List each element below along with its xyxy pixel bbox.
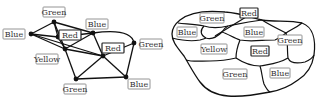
- svg-text:Red: Red: [62, 31, 78, 40]
- graph-node-label: Red: [59, 30, 81, 40]
- svg-text:Green: Green: [42, 8, 67, 17]
- svg-text:Red: Red: [241, 9, 257, 18]
- graph-node-label: Red: [102, 43, 124, 53]
- svg-text:Blue: Blue: [245, 28, 264, 37]
- graph-node-label: Blue: [86, 19, 108, 29]
- svg-text:Green: Green: [63, 85, 88, 94]
- map-region-label: Red: [251, 46, 269, 56]
- svg-text:Red: Red: [252, 47, 268, 56]
- svg-text:Yellow: Yellow: [200, 45, 227, 54]
- map-region-label: Blue: [177, 27, 197, 37]
- graph-node: [63, 47, 68, 52]
- svg-text:Green: Green: [200, 14, 225, 23]
- map-region-label: Green: [200, 13, 225, 23]
- map-region-label: Green: [278, 35, 303, 45]
- map-region-label: Blue: [270, 68, 290, 78]
- graph-node-label: Green: [63, 84, 88, 94]
- graph-node-label: Blue: [128, 79, 150, 89]
- svg-text:Blue: Blue: [88, 20, 107, 29]
- graph-node: [52, 20, 57, 25]
- graph-node-label: Blue: [3, 29, 25, 39]
- svg-text:Blue: Blue: [178, 28, 197, 37]
- svg-text:Yellow: Yellow: [33, 55, 60, 64]
- graph-node-label: Green: [139, 39, 164, 49]
- graph-edge: [126, 43, 134, 77]
- graph-edge: [65, 49, 76, 79]
- map-region-label: Red: [240, 8, 258, 18]
- svg-text:Red: Red: [105, 44, 121, 53]
- diagram-svg: GreenBlueRedBlueYellowRedGreenGreenBlue …: [0, 0, 318, 102]
- svg-text:Green: Green: [139, 40, 164, 49]
- graph-node-label: Yellow: [33, 54, 60, 64]
- svg-text:Green: Green: [278, 36, 303, 45]
- svg-text:Blue: Blue: [271, 69, 290, 78]
- map-region-label: Yellow: [200, 44, 227, 54]
- svg-text:Green: Green: [223, 70, 248, 79]
- graph-edge: [76, 77, 126, 79]
- map-regions: [172, 11, 315, 96]
- graph-edge-curved: [93, 32, 134, 43]
- graph-edge: [76, 56, 103, 79]
- graph-node: [132, 41, 137, 46]
- svg-text:Blue: Blue: [5, 30, 24, 39]
- diagram-stage: GreenBlueRedBlueYellowRedGreenGreenBlue …: [0, 0, 318, 102]
- map-region-label: Green: [223, 69, 248, 79]
- graph-node: [91, 31, 96, 36]
- graph-node-label: Green: [42, 7, 67, 17]
- graph-node: [74, 77, 79, 82]
- graph-edge: [103, 56, 126, 77]
- graph-edge: [31, 22, 54, 34]
- map-region-label: Blue: [244, 27, 264, 37]
- graph-node: [101, 54, 106, 59]
- graph-node: [29, 32, 34, 37]
- graph-node: [124, 75, 129, 80]
- svg-text:Blue: Blue: [130, 80, 149, 89]
